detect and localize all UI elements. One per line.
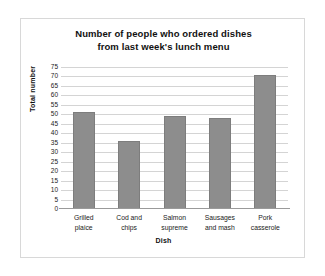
y-axis-tick-label: 10 [51, 187, 58, 194]
y-axis-tick-label: 25 [51, 158, 58, 165]
y-axis-tick-label: 65 [51, 83, 58, 90]
bar [118, 141, 140, 209]
x-axis-tick-label-line: casserole [243, 223, 288, 233]
x-axis-tick-label-line: Salmon [152, 213, 197, 223]
y-axis-tick-label: 60 [51, 92, 58, 99]
y-axis-title: Total number [29, 66, 36, 112]
y-axis-tick-label: 75 [51, 64, 58, 71]
x-axis-tick-label-line: supreme [152, 223, 197, 233]
x-axis-tick-label: Salmonsupreme [152, 213, 197, 232]
x-axis-tick-labels: GrilledplaiceCod andchipsSalmonsupremeSa… [61, 213, 288, 239]
chart-title-line-2: from last week's lunch menu [21, 40, 306, 53]
x-axis-tick-label: Grilledplaice [61, 213, 106, 232]
x-axis-tick-label-line: Cod and [106, 213, 151, 223]
y-axis-tick-label: 55 [51, 102, 58, 109]
chart-figure: Number of people who ordered dishes from… [20, 18, 305, 258]
y-axis-tick-label: 45 [51, 121, 58, 128]
plot-area: 051015202530354045505560657075 [61, 67, 288, 209]
y-axis-tick-label: 15 [51, 177, 58, 184]
bar [164, 116, 186, 209]
x-axis-tick-label: Porkcasserole [243, 213, 288, 232]
chart-title-line-1: Number of people who ordered dishes [21, 27, 306, 40]
y-axis-tick-label: 5 [54, 196, 58, 203]
x-axis-line [59, 208, 290, 209]
x-axis-tick-label-line: Pork [243, 213, 288, 223]
y-axis-tick-label: 20 [51, 168, 58, 175]
y-axis-tick-label: 35 [51, 139, 58, 146]
bar [209, 118, 231, 209]
x-axis-tick-label: Sausagesand mash [197, 213, 242, 232]
chart-title: Number of people who ordered dishes from… [21, 27, 306, 53]
x-axis-tick-label: Cod andchips [106, 213, 151, 232]
x-axis-tick-label-line: and mash [197, 223, 242, 233]
bar-series [61, 67, 288, 209]
y-axis-tick-label: 40 [51, 130, 58, 137]
y-axis-tick-label: 70 [51, 73, 58, 80]
x-axis-tick-label-line: plaice [61, 223, 106, 233]
x-axis-tick-label-line: chips [106, 223, 151, 233]
x-axis-tick-label-line: Sausages [197, 213, 242, 223]
y-axis-tick-label: 30 [51, 149, 58, 156]
bar [73, 112, 95, 209]
x-axis-tick-label-line: Grilled [61, 213, 106, 223]
y-axis-tick-label: 0 [54, 206, 58, 213]
y-axis-tick-label: 50 [51, 111, 58, 118]
x-axis-title: Dish [21, 237, 306, 244]
bar [254, 75, 276, 209]
